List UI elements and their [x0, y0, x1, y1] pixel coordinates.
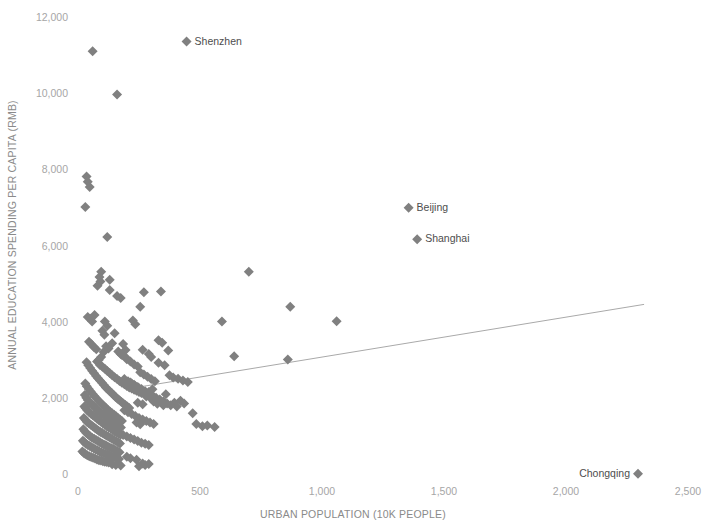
data-point-marker [102, 232, 112, 242]
point-label-beijing: Beijing [417, 201, 449, 213]
data-point-marker [244, 267, 254, 277]
data-point-marker [105, 285, 115, 295]
scatter-chart: ANNUAL EDUCATION SPENDING PER CAPITA (RM… [0, 0, 706, 529]
data-point-marker [110, 328, 120, 338]
data-point-marker [210, 422, 220, 432]
annotated-point-marker [182, 37, 192, 47]
data-point-marker [285, 302, 295, 312]
data-point-marker [88, 46, 98, 56]
data-point-marker [135, 302, 145, 312]
data-points [77, 46, 341, 471]
trendline-line [137, 304, 645, 387]
annotated-point-marker [633, 469, 643, 479]
data-point-marker [112, 90, 122, 100]
data-point-marker [163, 345, 173, 355]
data-point-marker [156, 286, 166, 296]
annotated-point-marker [404, 203, 414, 213]
data-point-marker [332, 316, 342, 326]
point-label-shanghai: Shanghai [425, 232, 469, 244]
data-point-marker [80, 202, 90, 212]
trendline [137, 304, 645, 387]
data-point-marker [229, 351, 239, 361]
data-point-marker [217, 317, 227, 327]
data-point-marker [139, 287, 149, 297]
data-point-marker [105, 275, 115, 285]
plot-area [0, 0, 706, 529]
annotation-markers [182, 37, 643, 479]
annotated-point-marker [412, 234, 422, 244]
data-point-marker [188, 408, 198, 418]
point-label-chongqing: Chongqing [0, 467, 630, 479]
point-label-shenzhen: Shenzhen [195, 35, 242, 47]
